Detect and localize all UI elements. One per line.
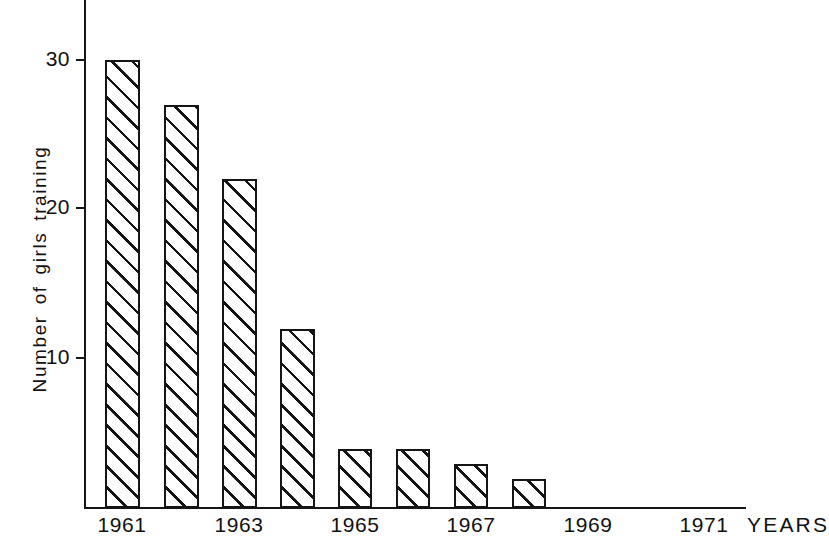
y-tick-label-20-wrap: 20 [34,195,70,219]
bar-1961 [105,60,140,508]
bar-1965 [338,449,372,508]
y-tick-label-10-wrap: 10 [34,345,70,369]
bar-1966 [396,449,430,508]
x-tick-label-1971: 1971 [669,513,739,537]
x-tick-label-1965: 1965 [320,513,390,537]
x-tick-label-1963: 1963 [204,513,274,537]
y-tick-label-30-wrap: 30 [34,47,70,71]
y-tick-mark-20 [76,207,86,209]
bar-1968 [512,479,546,508]
x-tick-label-1961: 1961 [87,513,157,537]
y-axis-line [84,0,86,509]
bar-1963 [222,179,257,508]
y-axis-title: Number of girls training [29,109,51,429]
y-tick-mark-30 [76,59,86,61]
bar-1962 [164,105,199,508]
x-axis-title: YEARS [747,513,829,537]
y-tick-label-20: 20 [46,195,70,219]
y-tick-label-30: 30 [46,47,70,71]
x-tick-label-1967: 1967 [436,513,506,537]
y-tick-label-10: 10 [46,345,70,369]
bar-1964 [280,329,315,508]
bar-1967 [454,464,488,508]
y-tick-mark-10 [76,357,86,359]
x-tick-label-1969: 1969 [553,513,623,537]
